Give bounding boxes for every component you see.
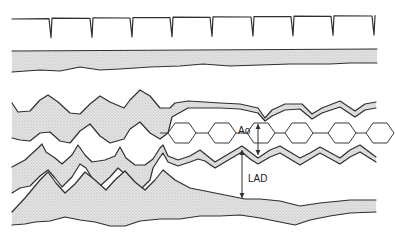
aortic-valve-hexagons xyxy=(160,123,394,143)
ao-label: Ao xyxy=(238,125,251,136)
valve-hexagon xyxy=(247,123,275,143)
posterior-aortic-wall-band xyxy=(12,144,376,193)
ecg-trace xyxy=(12,16,375,38)
diagram-canvas: Ao LAD xyxy=(0,0,395,236)
lad-label: LAD xyxy=(248,173,267,184)
valve-hexagon xyxy=(285,123,313,143)
valve-hexagon xyxy=(366,123,394,143)
chest-wall-band xyxy=(12,49,377,72)
valve-hexagon xyxy=(328,123,356,143)
valve-hexagon xyxy=(208,123,236,143)
valve-hexagon xyxy=(168,123,196,143)
echocardiogram-diagram: Ao LAD xyxy=(0,0,395,236)
